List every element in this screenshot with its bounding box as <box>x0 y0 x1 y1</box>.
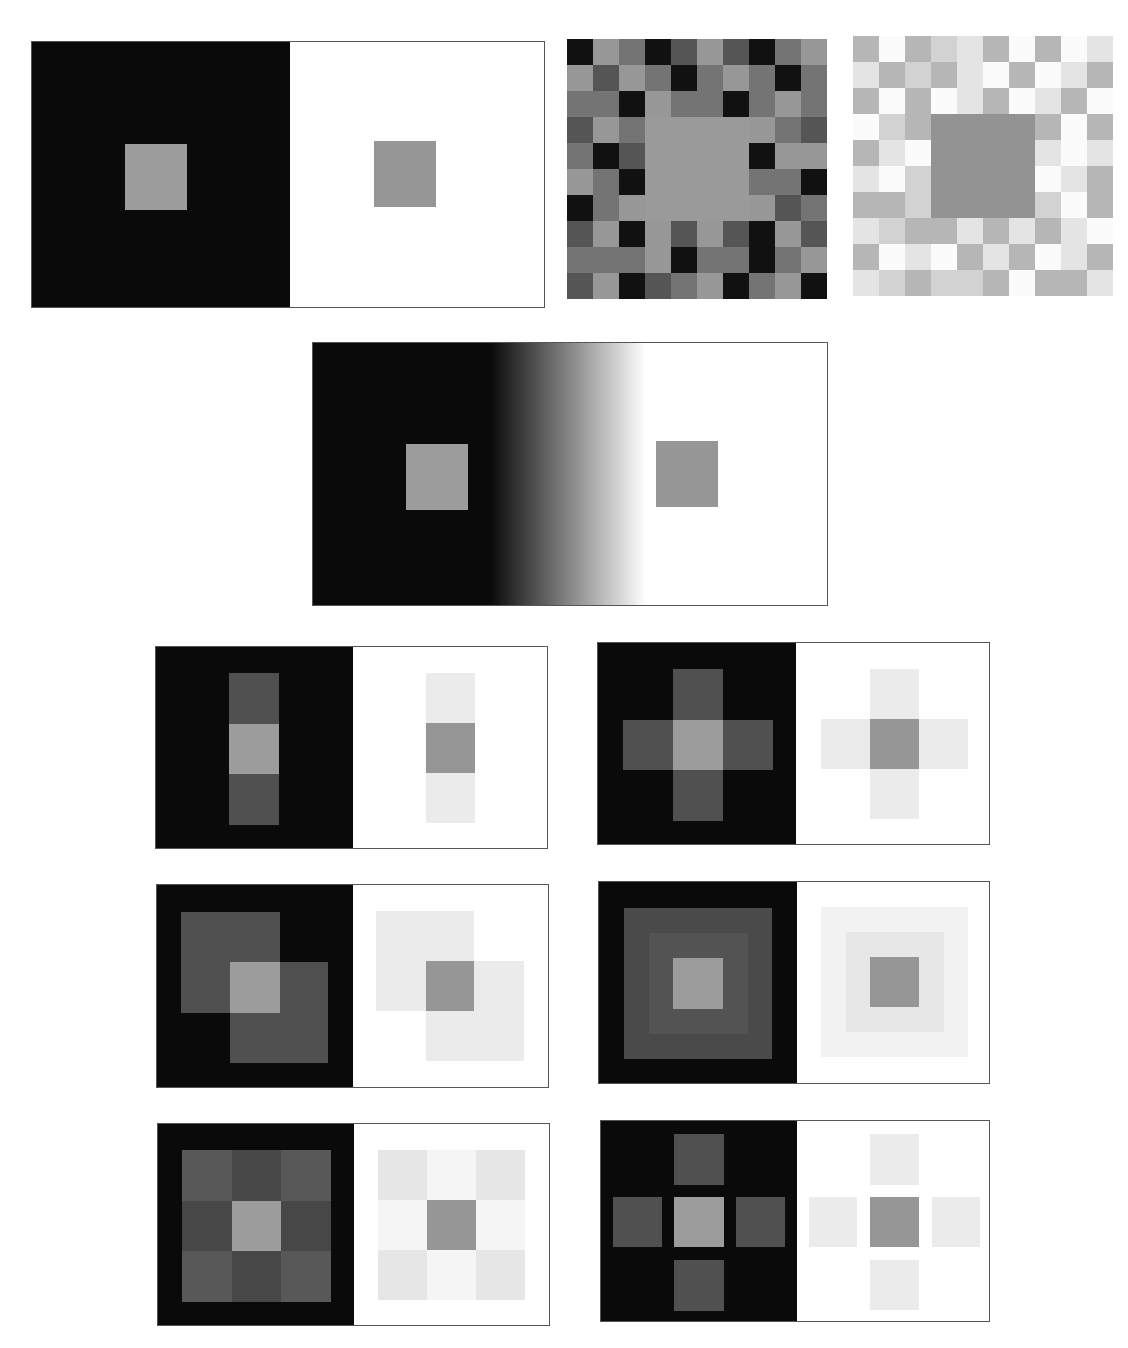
mosaic-cell <box>1035 192 1061 218</box>
mosaic-cell <box>905 192 931 218</box>
mosaic-cell <box>697 39 723 65</box>
mosaic-cell <box>1035 244 1061 270</box>
mosaic-cell <box>1061 218 1087 244</box>
mosaic-cell <box>567 195 593 221</box>
mosaic-cell <box>749 117 775 143</box>
target-square <box>673 720 723 770</box>
mosaic-cell <box>1009 62 1035 88</box>
vertical-bar-panel <box>155 646 548 849</box>
surround-edge <box>232 1251 281 1302</box>
nested-squares-panel <box>598 881 990 1084</box>
mosaic-cell <box>957 244 983 270</box>
mosaic-cell <box>1061 244 1087 270</box>
surround-edge <box>281 1201 331 1251</box>
mosaic-cell <box>853 270 879 296</box>
mosaic-cell <box>749 39 775 65</box>
mosaic-cell <box>905 62 931 88</box>
mosaic-cell <box>619 117 645 143</box>
mosaic-cell <box>593 221 619 247</box>
target-square <box>870 957 919 1007</box>
mosaic-cell <box>1035 270 1061 296</box>
mosaic-cell <box>567 169 593 195</box>
mosaic-cell <box>619 221 645 247</box>
mosaic-cell <box>931 88 957 114</box>
dark-mosaic <box>567 39 827 299</box>
target-square <box>656 441 718 507</box>
mosaic-cell <box>775 39 801 65</box>
mosaic-cell <box>905 166 931 192</box>
mosaic-cell <box>593 169 619 195</box>
mosaic-cell <box>567 273 593 299</box>
mosaic-cell <box>749 143 775 169</box>
gradient-contrast-panel <box>312 342 828 606</box>
mosaic-cell <box>619 273 645 299</box>
mosaic-cell <box>671 273 697 299</box>
mosaic-cell <box>567 247 593 273</box>
mosaic-cell <box>723 273 749 299</box>
mosaic-cell <box>723 39 749 65</box>
mosaic-cell <box>931 218 957 244</box>
mosaic-cell <box>879 140 905 166</box>
surround-arm-top <box>870 1134 919 1185</box>
surround-flank <box>229 774 279 825</box>
mosaic-cell <box>931 244 957 270</box>
mosaic-cell <box>1061 166 1087 192</box>
surround-arm <box>919 719 968 769</box>
surround-arm-right <box>736 1197 785 1247</box>
mosaic-cell <box>1009 244 1035 270</box>
surround-corner <box>182 1150 232 1201</box>
mosaic-cell <box>567 143 593 169</box>
surround-corner <box>281 1150 331 1201</box>
surround-arm <box>870 769 919 819</box>
mosaic-cell <box>567 91 593 117</box>
mosaic-cell <box>1087 114 1113 140</box>
mosaic-cell <box>749 169 775 195</box>
mosaic-cell <box>775 91 801 117</box>
target-square <box>870 1197 919 1247</box>
mosaic-cell <box>671 91 697 117</box>
mosaic-cell <box>1087 62 1113 88</box>
mosaic-cell <box>645 247 671 273</box>
target-square <box>870 719 919 769</box>
mosaic-cell <box>983 270 1009 296</box>
surround-edge <box>427 1250 476 1300</box>
mosaic-cell <box>1035 166 1061 192</box>
mosaic-cell <box>853 192 879 218</box>
mosaic-cell <box>723 247 749 273</box>
mosaic-cell <box>1087 192 1113 218</box>
mosaic-cell <box>1035 36 1061 62</box>
surround-flank <box>426 773 475 823</box>
mosaic-cell <box>775 65 801 91</box>
mosaic-cell <box>801 169 827 195</box>
mosaic-cell <box>1009 88 1035 114</box>
mosaic-cell <box>775 143 801 169</box>
mosaic-cell <box>957 88 983 114</box>
classic-contrast-panel <box>31 41 545 308</box>
mosaic-cell <box>567 117 593 143</box>
mosaic-cell <box>879 270 905 296</box>
target-square <box>230 962 280 1013</box>
mosaic-cell <box>619 143 645 169</box>
mosaic-cell <box>593 195 619 221</box>
mosaic-cell <box>879 218 905 244</box>
mosaic-cell <box>723 65 749 91</box>
mosaic-cell <box>905 244 931 270</box>
mosaic-cell <box>775 195 801 221</box>
surround-arm <box>821 719 870 769</box>
target-square <box>427 1200 476 1250</box>
mosaic-cell <box>697 91 723 117</box>
mosaic-cell <box>775 169 801 195</box>
target-square <box>426 723 475 773</box>
mosaic-cell <box>879 114 905 140</box>
mosaic-cell <box>931 270 957 296</box>
mosaic-cell <box>1061 114 1087 140</box>
surround-edge <box>378 1200 427 1250</box>
mosaic-cell <box>671 221 697 247</box>
mosaic-cell <box>697 247 723 273</box>
surround-flank <box>229 673 279 724</box>
mosaic-cell <box>723 91 749 117</box>
mosaic-cell <box>567 221 593 247</box>
mosaic-cell <box>697 221 723 247</box>
mosaic-cell <box>567 39 593 65</box>
mosaic-cell <box>905 218 931 244</box>
